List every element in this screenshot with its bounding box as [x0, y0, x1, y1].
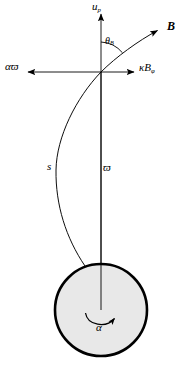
- right-axis-label-subscript: φ: [151, 67, 155, 74]
- figure-root: up B θB αϖ κBφ s ϖ α: [0, 0, 183, 365]
- left-axis-label: αϖ: [5, 61, 19, 72]
- arclength-label: s: [47, 161, 51, 172]
- diagram-canvas: [0, 0, 183, 365]
- rotation-label: α: [96, 322, 102, 333]
- right-axis-label: κBφ: [139, 62, 155, 74]
- angle-label: θB: [105, 36, 114, 47]
- field-vector-label: B: [167, 20, 175, 32]
- angle-label-subscript: B: [110, 39, 114, 46]
- vertical-axis-label: up: [92, 1, 101, 13]
- vertical-axis-label-subscript: p: [98, 6, 101, 13]
- right-axis-label-symbol: κB: [139, 61, 151, 73]
- cylindrical-radius-label: ϖ: [103, 162, 111, 173]
